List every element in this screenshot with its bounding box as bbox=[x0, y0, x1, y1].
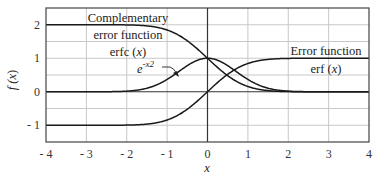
erfc-label-line3: erfc (x) bbox=[110, 45, 146, 59]
x-tick-labels: - 4- 3- 2- 101234 bbox=[40, 147, 373, 161]
gauss-label: e-x2 bbox=[137, 59, 155, 76]
erf-label-line1: Error function bbox=[290, 44, 362, 58]
y-tick-labels: - 1012 bbox=[27, 18, 40, 133]
error-function-chart: - 4- 3- 2- 101234 - 1012 Complementary e… bbox=[0, 0, 388, 176]
y-tick-label: 0 bbox=[34, 85, 40, 99]
erfc-label-line1: Complementary bbox=[88, 11, 169, 25]
erf-label-line2: erf (x) bbox=[311, 62, 342, 76]
erfc-label-line2: error function bbox=[93, 28, 163, 42]
x-tick-label: 4 bbox=[366, 147, 372, 161]
y-tick-label: 1 bbox=[34, 51, 40, 65]
y-axis-label: f (x) bbox=[5, 70, 19, 91]
x-tick-label: 2 bbox=[285, 147, 291, 161]
x-tick-label: 3 bbox=[326, 147, 332, 161]
x-tick-label: - 1 bbox=[161, 147, 174, 161]
x-tick-label: - 4 bbox=[40, 147, 53, 161]
x-tick-label: 1 bbox=[245, 147, 251, 161]
x-tick-label: 0 bbox=[205, 147, 211, 161]
y-tick-label: - 1 bbox=[27, 118, 40, 132]
x-tick-label: - 3 bbox=[80, 147, 93, 161]
x-axis-label: x bbox=[203, 161, 210, 175]
y-tick-label: 2 bbox=[34, 18, 40, 32]
x-tick-label: - 2 bbox=[120, 147, 133, 161]
